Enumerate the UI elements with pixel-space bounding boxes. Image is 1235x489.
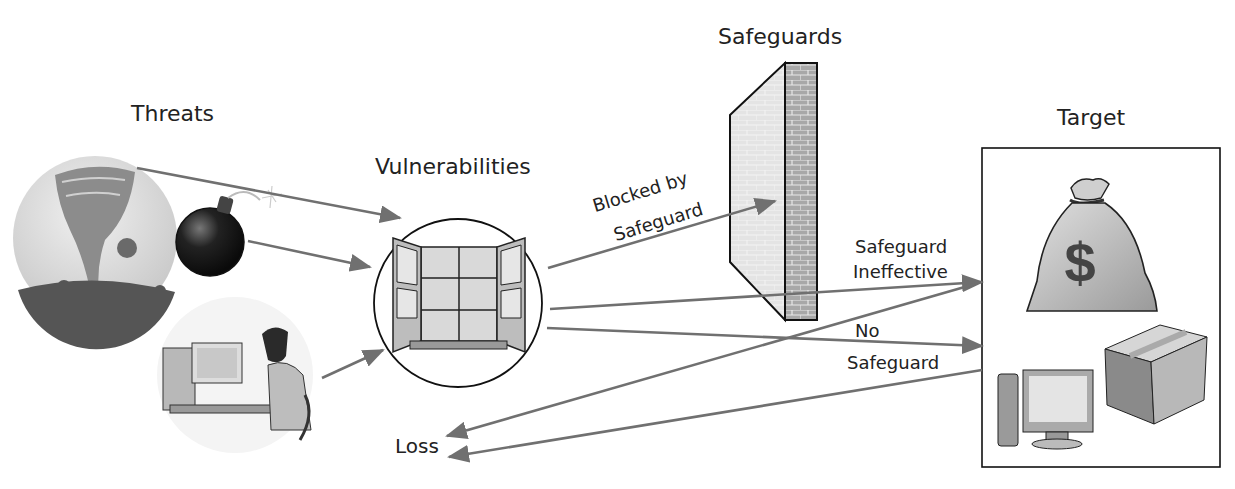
svg-text:$: $: [1064, 231, 1095, 294]
hacker-icon: [157, 297, 313, 453]
ineffective-label-line1: Safeguard: [855, 236, 947, 257]
target-title: Target: [1057, 105, 1125, 130]
tornado-icon: [13, 156, 177, 349]
threats-title: Threats: [131, 101, 214, 126]
bomb-icon: [176, 186, 282, 276]
vulnerabilities-title: Vulnerabilities: [375, 154, 531, 179]
loss-label: Loss: [395, 434, 439, 458]
arrow-tornado-to-vulnerability: [137, 168, 400, 218]
open-window-icon: [374, 219, 542, 387]
safeguards-title: Safeguards: [718, 24, 842, 49]
money-bag-icon: $: [1027, 179, 1157, 311]
computer-icon: [998, 370, 1093, 449]
no-safeguard-label-line1: No: [855, 320, 879, 341]
arrow-hacker-to-vulnerability: [322, 350, 383, 378]
arrow-bomb-to-vulnerability: [248, 241, 370, 267]
ineffective-label-line2: Ineffective: [853, 261, 948, 282]
brick-wall-icon: [730, 63, 817, 320]
package-box-icon: [1105, 325, 1207, 424]
no-safeguard-label-line2: Safeguard: [847, 352, 939, 373]
